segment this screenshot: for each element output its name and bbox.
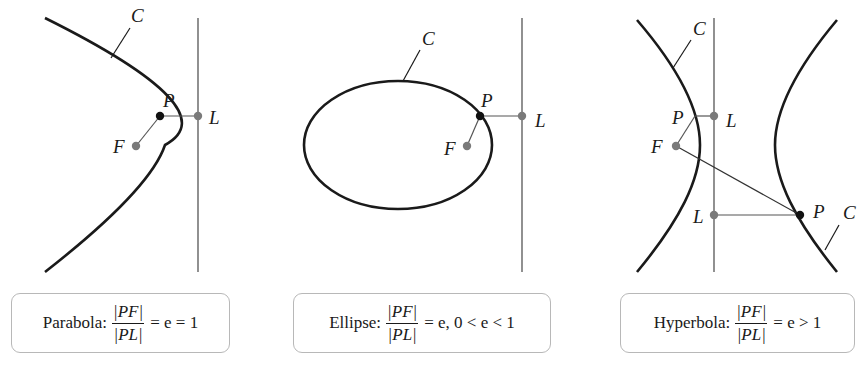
ellipse-f-label: F <box>443 138 456 159</box>
hyperbola-curve-label-2: C <box>843 202 856 223</box>
hyperbola-p-label-2: P <box>812 201 825 222</box>
hyperbola-panel: C C P L F L P <box>637 18 856 272</box>
ellipse-curve-label: C <box>422 28 435 49</box>
hyperbola-curve-label-1: C <box>693 18 706 39</box>
hyperbola-curve-leader-2 <box>825 225 839 250</box>
hyperbola-p-label-1: P <box>671 107 684 128</box>
parabola-l-label: L <box>208 107 220 128</box>
parabola-caption-name: Parabola: <box>43 313 107 333</box>
ellipse-point-l <box>518 112 526 120</box>
hyperbola-caption-box: Hyperbola: |PF| |PL| = e > 1 <box>620 293 855 353</box>
parabola-point-l <box>194 112 202 120</box>
fraction-numerator: |PF| <box>386 301 418 324</box>
fraction-numerator: |PF| <box>112 301 144 324</box>
ellipse-p-label: P <box>480 90 493 111</box>
hyperbola-point-l-2 <box>710 211 718 219</box>
hyperbola-l-label-1: L <box>725 110 737 131</box>
hyperbola-l-label-2: L <box>692 206 704 227</box>
parabola-caption-relation: = e = 1 <box>150 313 198 333</box>
ellipse-caption-box: Ellipse: |PF| |PL| = e, 0 < e < 1 <box>293 293 551 353</box>
fraction-denominator: |PL| <box>114 324 143 346</box>
ellipse-focus-f <box>463 142 471 150</box>
ellipse-panel: C P L F <box>304 18 546 272</box>
hyperbola-focus-f <box>672 142 680 150</box>
ellipse-point-p <box>476 112 484 120</box>
parabola-caption-box: Parabola: |PF| |PL| = e = 1 <box>11 293 230 353</box>
hyperbola-f-label: F <box>650 136 663 157</box>
parabola-segment-pf <box>136 116 160 146</box>
hyperbola-ratio-fraction: |PF| |PL| <box>735 301 767 346</box>
fraction-denominator: |PL| <box>737 324 766 346</box>
hyperbola-caption-relation: = e > 1 <box>773 313 821 333</box>
parabola-f-label: F <box>112 136 125 157</box>
parabola-curve-label: C <box>131 5 144 26</box>
hyperbola-point-p-2 <box>796 211 804 219</box>
parabola-p-label: P <box>162 90 175 111</box>
parabola-point-p <box>156 112 164 120</box>
ellipse-ratio-fraction: |PF| |PL| <box>386 301 418 346</box>
parabola-panel: C P L F <box>45 5 220 272</box>
parabola-focus-f <box>132 142 140 150</box>
fraction-denominator: |PL| <box>388 324 417 346</box>
hyperbola-point-l-1 <box>710 112 718 120</box>
ellipse-caption-relation: = e, 0 < e < 1 <box>424 313 515 333</box>
parabola-curve-leader <box>111 28 130 58</box>
parabola-ratio-fraction: |PF| |PL| <box>112 301 144 346</box>
hyperbola-caption-name: Hyperbola: <box>654 313 730 333</box>
fraction-numerator: |PF| <box>735 301 767 324</box>
ellipse-caption-name: Ellipse: <box>329 313 381 333</box>
hyperbola-curve-leader-1 <box>673 40 691 68</box>
hyperbola-left-branch <box>637 20 700 272</box>
ellipse-l-label: L <box>534 110 546 131</box>
conic-sections-figure: C P L F C P L F C C <box>0 0 866 290</box>
ellipse-segment-pf <box>467 116 480 146</box>
hyperbola-right-branch <box>775 20 837 272</box>
ellipse-curve-leader <box>403 50 420 81</box>
